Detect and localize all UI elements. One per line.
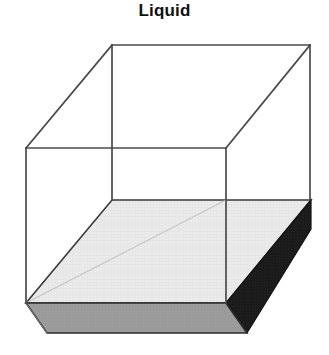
- liquid-box-diagram: [0, 0, 329, 355]
- figure-root: Liquid: [0, 0, 329, 355]
- liquid-front-face: [26, 303, 247, 333]
